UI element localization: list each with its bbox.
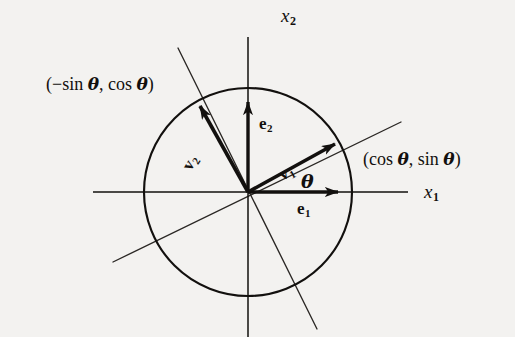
- coord-v2-suffix: ): [148, 74, 154, 94]
- axis-label-x1: x1: [424, 182, 439, 203]
- vector-label-e1-base: e: [297, 199, 305, 218]
- axis-label-x2-base: x: [281, 5, 289, 26]
- coord-v2-middle: , cos: [99, 74, 137, 94]
- vector-v2: [200, 106, 248, 192]
- vector-label-e2-subscript: 2: [267, 122, 273, 134]
- coord-v1-middle: , sin: [409, 149, 444, 169]
- coord-v1-prefix: (cos: [363, 149, 398, 169]
- axis-label-x1-base: x: [424, 181, 432, 202]
- rotation-diagram-figure: x2 x1 (cos θ, sin θ) (−sin θ, cos θ) e2 …: [0, 0, 515, 337]
- axis-label-x2-subscript: 2: [290, 14, 296, 28]
- axis-label-x2: x2: [281, 6, 296, 27]
- angle-label-theta: θ: [301, 172, 314, 191]
- vector-label-e1: e1: [297, 200, 311, 219]
- coord-v2-theta-2: θ: [137, 74, 148, 94]
- coord-v1-suffix: ): [455, 149, 461, 169]
- coordinate-label-v1: (cos θ, sin θ): [363, 150, 461, 168]
- vector-label-e2-base: e: [259, 114, 267, 133]
- coord-v1-theta-1: θ: [398, 149, 409, 169]
- axis-label-x1-subscript: 1: [433, 190, 439, 204]
- vector-label-e1-subscript: 1: [305, 207, 311, 219]
- coord-v1-theta-2: θ: [443, 149, 454, 169]
- coordinate-label-v2: (−sin θ, cos θ): [46, 75, 154, 93]
- coord-v2-prefix: (−sin: [46, 74, 88, 94]
- coord-v2-theta-1: θ: [88, 74, 99, 94]
- vector-label-e2: e2: [259, 115, 273, 134]
